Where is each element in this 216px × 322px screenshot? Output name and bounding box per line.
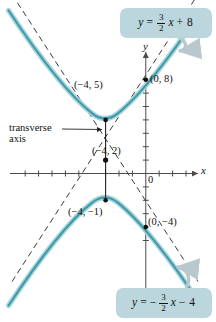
callout-bottom-numerator: 3 <box>159 293 168 302</box>
callout-bottom-minus: − <box>178 297 187 309</box>
callout-top-y: y <box>138 17 143 29</box>
callout-top-constant: 8 <box>186 17 194 29</box>
label-y-intercept-positive: (0, 8) <box>150 74 173 85</box>
callout-bottom-y: y <box>132 297 137 309</box>
callout-asymptote-positive: y = 3 2 x + 8 <box>120 8 212 38</box>
axis-label-y: y <box>143 41 148 52</box>
point-center <box>103 158 108 163</box>
origin-label: 0 <box>148 175 153 186</box>
axis-label-x: x <box>201 165 206 176</box>
callout-top-fraction: 3 2 <box>157 13 166 32</box>
callout-top-x: x <box>168 17 173 29</box>
label-y-intercept-negative: (0, −4) <box>148 217 177 228</box>
callout-asymptote-negative: y = − 3 2 x − 4 <box>116 288 212 318</box>
transverse-axis-pointer <box>62 129 102 130</box>
callout-bottom-constant: 4 <box>188 297 196 309</box>
label-lower-vertex: (−4, −1) <box>68 207 103 218</box>
callout-bottom-x: x <box>171 297 176 309</box>
label-transverse-axis: transverse axis <box>9 122 52 145</box>
label-center: (−4, 2) <box>92 146 121 157</box>
callout-top-denominator: 2 <box>157 23 166 33</box>
callout-top-numerator: 3 <box>157 13 166 22</box>
graph-canvas <box>0 0 216 322</box>
callout-bottom-denominator: 2 <box>159 303 168 313</box>
label-upper-vertex: (−4, 5) <box>74 80 103 91</box>
callout-bottom-equals: = <box>139 297 148 309</box>
point-lower-vertex <box>103 198 108 203</box>
callout-bottom-fraction: 3 2 <box>159 293 168 312</box>
axis-x <box>10 171 198 177</box>
point-y-intercept-positive <box>144 77 149 82</box>
label-transverse-line1: transverse <box>9 122 52 133</box>
callout-top-equals: = <box>145 17 154 29</box>
hyperbola-figure: y = 3 2 x + 8 y = − 3 2 x − 4 (−4, 5) (−… <box>0 0 216 322</box>
callout-top-plus: + <box>175 17 184 29</box>
point-upper-vertex <box>103 118 108 123</box>
label-transverse-line2: axis <box>9 133 52 144</box>
callout-bottom-sign: − <box>150 297 157 309</box>
